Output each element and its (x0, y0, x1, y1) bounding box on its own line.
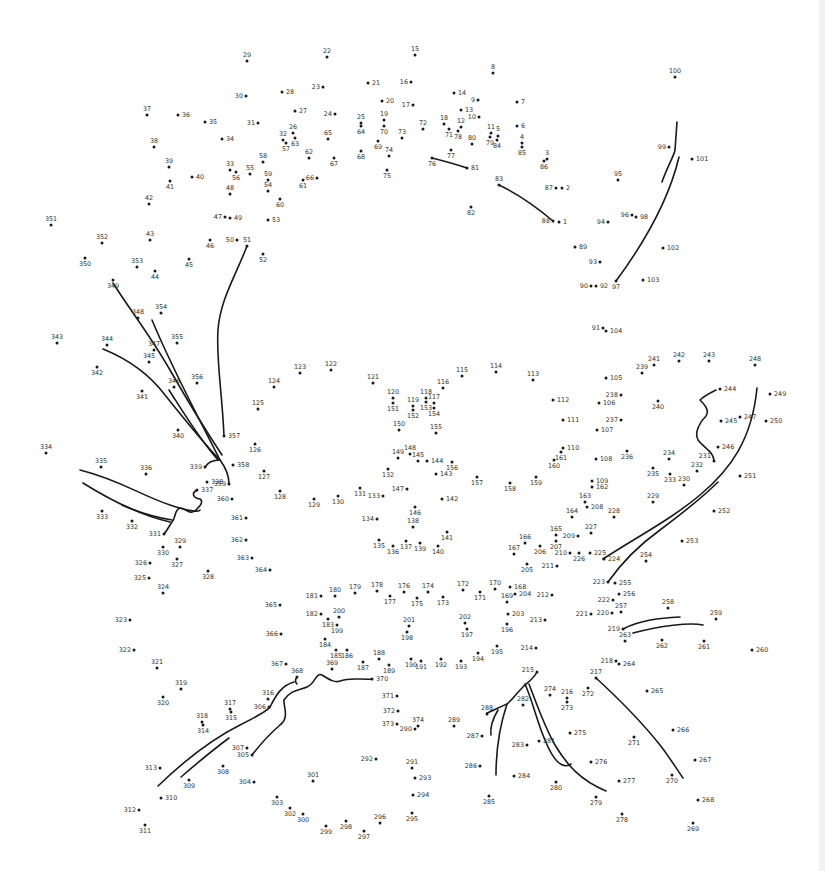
dot-180[interactable]: 180 (329, 586, 341, 598)
dot-252[interactable]: 252 (713, 507, 731, 515)
dot-300[interactable]: 300 (297, 813, 309, 825)
dot-260[interactable]: 260 (751, 646, 769, 654)
dot-marker[interactable] (204, 466, 207, 469)
dot-158[interactable]: 158 (504, 482, 516, 494)
dot-marker[interactable] (478, 116, 481, 119)
dot-marker[interactable] (713, 460, 716, 463)
dot-marker[interactable] (603, 558, 606, 561)
dot-marker[interactable] (412, 794, 415, 797)
dot-marker[interactable] (148, 577, 151, 580)
dot-182[interactable]: 182 (306, 610, 323, 618)
dot-marker[interactable] (471, 143, 474, 146)
dot-229[interactable]: 229 (647, 492, 659, 504)
dot-49[interactable]: 49 (229, 214, 243, 222)
dot-312[interactable]: 312 (124, 806, 141, 814)
dot-marker[interactable] (646, 690, 649, 693)
dot-10[interactable]: 10 (468, 113, 481, 121)
dot-37[interactable]: 37 (143, 105, 151, 117)
dot-45[interactable]: 45 (185, 258, 193, 270)
dot-73[interactable]: 73 (398, 128, 406, 140)
dot-marker[interactable] (281, 91, 284, 94)
dot-174[interactable]: 174 (422, 582, 434, 594)
dot-354[interactable]: 354 (155, 303, 167, 315)
dot-189[interactable]: 189 (383, 664, 395, 676)
dot-marker[interactable] (765, 420, 768, 423)
dot-marker[interactable] (586, 506, 589, 509)
dot-marker[interactable] (232, 464, 235, 467)
dot-marker[interactable] (375, 758, 378, 761)
dot-29[interactable]: 29 (243, 51, 251, 63)
dot-marker[interactable] (605, 377, 608, 380)
dot-137[interactable]: 137 (400, 540, 412, 552)
dot-341[interactable]: 341 (136, 390, 148, 402)
dot-135[interactable]: 135 (373, 539, 385, 551)
dot-marker[interactable] (268, 706, 271, 709)
dot-marker[interactable] (106, 344, 109, 347)
dot-12[interactable]: 12 (457, 117, 465, 129)
dot-196[interactable]: 196 (501, 623, 513, 635)
dot-210[interactable]: 210 (555, 549, 572, 557)
dot-marker[interactable] (229, 217, 232, 220)
dot-32[interactable]: 32 (279, 130, 287, 142)
dot-marker[interactable] (442, 387, 445, 390)
dot-305[interactable]: 305 (237, 751, 254, 759)
dot-177[interactable]: 177 (384, 595, 396, 607)
dot-286[interactable]: 286 (465, 762, 482, 770)
dot-marker[interactable] (635, 216, 638, 219)
dot-258[interactable]: 258 (662, 598, 674, 610)
dot-marker[interactable] (662, 247, 665, 250)
dot-14[interactable]: 14 (453, 89, 467, 97)
dot-marker[interactable] (617, 179, 620, 182)
dot-194[interactable]: 194 (472, 652, 484, 664)
dot-127[interactable]: 127 (258, 470, 270, 482)
dot-marker[interactable] (267, 219, 270, 222)
dot-marker[interactable] (652, 501, 655, 504)
dot-marker[interactable] (292, 132, 295, 135)
dot-211[interactable]: 211 (542, 562, 559, 570)
dot-116[interactable]: 116 (437, 378, 449, 390)
dot-marker[interactable] (221, 138, 224, 141)
dot-197[interactable]: 197 (461, 628, 473, 640)
dot-marker[interactable] (605, 330, 608, 333)
dot-marker[interactable] (549, 694, 552, 697)
dot-125[interactable]: 125 (252, 399, 264, 411)
dot-163[interactable]: 163 (579, 492, 591, 504)
dot-marker[interactable] (481, 735, 484, 738)
dot-255[interactable]: 255 (614, 579, 632, 587)
dot-244[interactable]: 244 (719, 385, 737, 393)
dot-marker[interactable] (672, 729, 675, 732)
dot-208[interactable]: 208 (586, 503, 604, 511)
dot-marker[interactable] (464, 622, 467, 625)
dot-318[interactable]: 318 (196, 712, 208, 724)
dot-337[interactable]: 337 (196, 486, 214, 494)
dot-310[interactable]: 310 (160, 794, 178, 802)
dot-156[interactable]: 156 (446, 461, 458, 473)
dot-28[interactable]: 28 (281, 88, 295, 96)
dot-234[interactable]: 234 (663, 449, 675, 461)
dot-54[interactable]: 54 (264, 181, 272, 193)
dot-57[interactable]: 57 (282, 142, 290, 154)
dot-221[interactable]: 221 (576, 610, 593, 618)
dot-200[interactable]: 200 (333, 607, 345, 619)
dot-217[interactable]: 217 (590, 668, 602, 680)
dot-330[interactable]: 330 (157, 546, 169, 558)
dot-marker[interactable] (769, 393, 772, 396)
dot-297[interactable]: 297 (358, 830, 370, 842)
dot-marker[interactable] (642, 279, 645, 282)
dot-marker[interactable] (526, 744, 529, 747)
dot-marker[interactable] (412, 405, 415, 408)
dot-139[interactable]: 139 (414, 542, 426, 554)
dot-247[interactable]: 247 (739, 413, 757, 421)
dot-225[interactable]: 225 (589, 549, 607, 557)
dot-marker[interactable] (180, 688, 183, 691)
dot-58[interactable]: 58 (259, 152, 267, 164)
dot-42[interactable]: 42 (145, 194, 153, 206)
dot-marker[interactable] (561, 187, 564, 190)
dot-marker[interactable] (160, 312, 163, 315)
dot-marker[interactable] (320, 595, 323, 598)
dot-368[interactable]: 368 (291, 667, 303, 679)
dot-261[interactable]: 261 (698, 640, 710, 652)
dot-359[interactable]: 359 (214, 480, 231, 488)
dot-marker[interactable] (516, 101, 519, 104)
dot-marker[interactable] (513, 553, 516, 556)
